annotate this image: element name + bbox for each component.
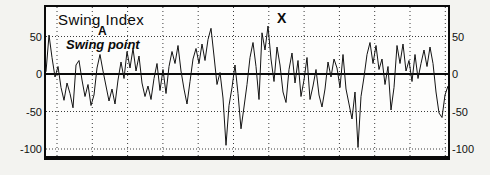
y-tick-left: 0: [0, 67, 42, 81]
y-tick-right: 50: [452, 30, 464, 44]
annotation-x: X: [277, 10, 286, 26]
y-tick-right: 0: [452, 67, 458, 81]
chart-frame: Swing Index A Swing point X: [44, 5, 450, 160]
annotation-a: A: [98, 24, 107, 38]
y-tick-left: -50: [0, 105, 42, 119]
y-tick-right: -50: [452, 105, 468, 119]
y-tick-right: -100: [452, 142, 474, 156]
annotation-swing-point: Swing point: [66, 37, 140, 52]
y-tick-left: 50: [0, 30, 42, 44]
page: 500-50-100 500-50-100 Swing Index A Swin…: [0, 0, 490, 175]
y-tick-left: -100: [0, 142, 42, 156]
